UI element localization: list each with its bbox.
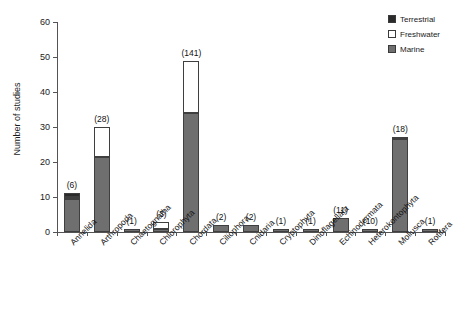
y-tick-mark: [53, 22, 57, 23]
y-tick-label: 30: [40, 122, 50, 132]
y-tick-mark: [53, 57, 57, 58]
bar-count-label: (1): [276, 216, 286, 226]
y-tick-mark: [53, 162, 57, 163]
bar-segment-freshwater: [183, 61, 199, 114]
bar-segment-terrestrial: [64, 193, 80, 197]
plot-area: 0102030405060 (6)(28)(1)(3)(141)(2)(2)(1…: [57, 22, 445, 232]
bar-segment-freshwater: [392, 137, 408, 139]
y-tick-label: 10: [40, 192, 50, 202]
bar-segment-marine: [64, 199, 80, 232]
y-tick-label: 50: [40, 52, 50, 62]
bar-count-label: (141): [181, 48, 201, 58]
y-tick-mark: [53, 127, 57, 128]
bar-chordata[interactable]: (141): [183, 41, 199, 233]
bar-count-label: (1): [425, 216, 435, 226]
bar-annelida[interactable]: (6): [64, 173, 80, 232]
bar-segment-freshwater: [64, 197, 80, 199]
y-axis-title: Number of studies: [12, 64, 22, 174]
bar-count-label: (28): [94, 114, 109, 124]
chart-figure: Terrestrial Freshwater Marine Number of …: [0, 0, 464, 319]
x-tick-mark: [57, 232, 58, 236]
y-tick-label: 20: [40, 157, 50, 167]
y-tick-label: 60: [40, 17, 50, 27]
bar-arthropoda[interactable]: (28): [94, 107, 110, 232]
bar-count-label: (6): [67, 180, 77, 190]
bar-count-label: (18): [393, 124, 408, 134]
y-axis-line: [57, 22, 58, 233]
y-tick-label: 40: [40, 87, 50, 97]
y-tick-mark: [53, 92, 57, 93]
bar-segment-freshwater: [94, 127, 110, 157]
bar-cryptophyta[interactable]: (1): [273, 209, 289, 233]
y-tick-mark: [53, 197, 57, 198]
y-tick-label: 0: [45, 227, 50, 237]
